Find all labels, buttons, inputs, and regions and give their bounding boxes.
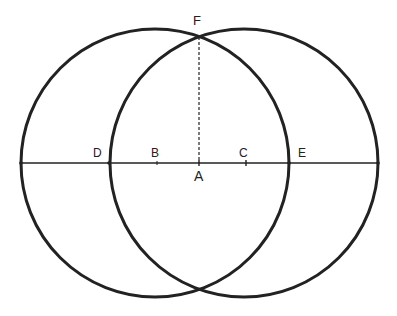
point-left-end xyxy=(19,161,23,165)
point-e xyxy=(287,161,291,165)
point-right-end xyxy=(376,161,380,165)
point-d xyxy=(107,161,111,165)
label-f: F xyxy=(193,13,201,28)
label-b: B xyxy=(151,146,159,160)
geometry-diagram: F D B A C E xyxy=(0,0,397,316)
label-a: A xyxy=(194,168,204,184)
label-d: D xyxy=(93,146,102,160)
label-c: C xyxy=(239,146,248,160)
label-e: E xyxy=(298,146,306,160)
